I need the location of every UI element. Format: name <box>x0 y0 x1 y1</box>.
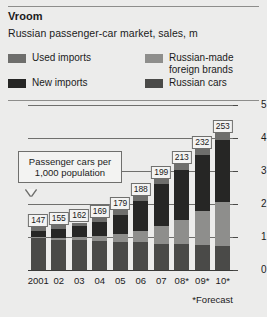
bar-segment <box>92 218 107 222</box>
bar-segment <box>133 242 148 270</box>
y-tick-5 <box>233 105 238 106</box>
bar-segment <box>195 245 210 270</box>
legend-label-russian-cars: Russian cars <box>169 77 227 89</box>
x-axis-label-02: 02 <box>53 275 64 286</box>
bar-segment <box>51 240 66 270</box>
legend-label-used-imports: Used imports <box>32 52 91 64</box>
bar-segment <box>215 133 230 139</box>
bar-segment <box>174 170 189 220</box>
x-axis-label-10: 10* <box>216 275 230 286</box>
chart-legend: Used imports New imports Russian-made fo… <box>8 52 259 96</box>
x-axis-label-09: 09* <box>195 275 209 286</box>
bar-segment <box>133 196 148 201</box>
annotation-callout: Passenger cars per1,000 population <box>18 151 122 183</box>
legend-divider <box>8 100 259 101</box>
bar-09[interactable] <box>195 149 210 270</box>
value-label-09: 232 <box>192 136 212 149</box>
x-axis-label-04: 04 <box>94 275 105 286</box>
x-axis-label-2001: 2001 <box>28 275 49 286</box>
value-label-04: 169 <box>90 205 110 218</box>
bar-segment <box>195 211 210 246</box>
bar-segment <box>72 223 87 227</box>
value-label-03: 162 <box>69 209 89 222</box>
chart-card: Vroom Russian passenger-car market, sale… <box>0 0 267 317</box>
chart-plot-area: 012345 147155162169179188199213232253 20… <box>8 105 259 310</box>
legend-item-russian-cars: Russian cars <box>145 77 227 89</box>
legend-label-new-imports: New imports <box>32 77 88 89</box>
bar-segment <box>195 155 210 211</box>
bar-07[interactable] <box>154 179 169 270</box>
legend-swatch-new-imports <box>8 79 26 88</box>
bar-segment <box>154 226 169 243</box>
bar-segment <box>174 244 189 270</box>
value-label-08: 213 <box>172 151 192 164</box>
value-label-2001: 147 <box>28 214 48 227</box>
value-label-07: 199 <box>151 166 171 179</box>
value-label-02: 155 <box>49 212 69 225</box>
bar-02[interactable] <box>51 225 66 270</box>
page-title: Vroom <box>8 10 43 22</box>
bar-08[interactable] <box>174 164 189 270</box>
chart-footnote: *Forecast <box>192 294 233 305</box>
bar-segment <box>215 202 230 247</box>
bar-segment <box>92 222 107 236</box>
value-label-06: 188 <box>131 183 151 196</box>
bar-segment <box>92 236 107 241</box>
y-axis-label-5: 5 <box>261 99 267 110</box>
legend-swatch-russian-made-foreign-brands <box>145 54 163 63</box>
y-tick-3 <box>233 171 238 172</box>
bar-segment <box>215 246 230 270</box>
legend-item-used-imports: Used imports <box>8 52 91 64</box>
bar-2001[interactable] <box>31 227 46 270</box>
y-tick-1 <box>233 237 238 238</box>
bar-segment <box>72 226 87 237</box>
bar-segment <box>154 184 169 226</box>
bar-segment <box>51 225 66 229</box>
legend-swatch-russian-cars <box>145 79 163 88</box>
y-tick-4 <box>233 138 238 139</box>
bar-segment <box>51 229 66 238</box>
bar-segment <box>113 234 128 241</box>
bar-segment <box>51 238 66 240</box>
annotation-callout-pointer <box>26 189 36 196</box>
bar-04[interactable] <box>92 218 107 270</box>
bar-segment <box>113 215 128 235</box>
bar-segment <box>31 231 46 237</box>
top-divider <box>8 6 259 7</box>
x-axis-label-03: 03 <box>74 275 85 286</box>
y-axis-label-4: 4 <box>261 132 267 143</box>
x-axis-label-08: 08* <box>175 275 189 286</box>
bar-segment <box>113 210 128 215</box>
legend-swatch-used-imports <box>8 54 26 63</box>
y-axis-label-1: 1 <box>261 231 267 242</box>
bar-segment <box>31 238 46 270</box>
bar-10[interactable] <box>215 133 230 270</box>
bar-segment <box>72 240 87 270</box>
x-axis-line <box>28 270 233 271</box>
y-tick-2 <box>233 204 238 205</box>
bar-segment <box>113 242 128 270</box>
value-label-10: 253 <box>213 120 233 133</box>
bar-06[interactable] <box>133 196 148 270</box>
legend-item-russian-made-foreign-brands: Russian-made foreign brands <box>145 52 233 75</box>
bar-segment <box>133 201 148 231</box>
legend-label-russian-made-foreign-brands: Russian-made foreign brands <box>169 52 233 75</box>
bar-segment <box>72 237 87 240</box>
bar-segment <box>215 140 230 202</box>
bar-segment <box>195 149 210 155</box>
legend-item-new-imports: New imports <box>8 77 88 89</box>
bar-segment <box>154 244 169 270</box>
x-axis-label-07: 07 <box>156 275 167 286</box>
y-axis-label-2: 2 <box>261 198 267 209</box>
bar-03[interactable] <box>72 222 87 270</box>
chart-subtitle: Russian passenger-car market, sales, m <box>8 27 198 39</box>
bar-segment <box>92 241 107 270</box>
chart-bars: 147155162169179188199213232253 <box>28 105 233 270</box>
y-axis-label-0: 0 <box>261 264 267 275</box>
y-tick-0 <box>233 270 238 271</box>
bar-segment <box>133 231 148 242</box>
bar-segment <box>31 237 46 238</box>
bar-segment <box>174 220 189 244</box>
bar-05[interactable] <box>113 210 128 270</box>
bar-segment <box>31 227 46 231</box>
